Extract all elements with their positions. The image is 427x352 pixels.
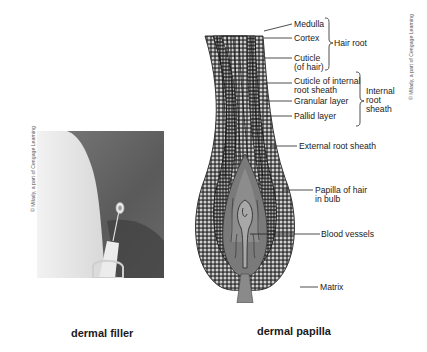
label-pallid-layer: Pallid layer [294,111,336,121]
label-cortex: Cortex [294,33,319,43]
label-hair-root: Hair root [334,38,367,48]
label-internal-root-line3: sheath [366,104,392,114]
label-matrix: Matrix [320,282,343,292]
dermal-filler-image [37,131,164,278]
left-copyright-credit: © Milady, a part of Cengage Learning [30,126,36,212]
label-blood-vessels: Blood vessels [321,229,374,239]
label-cuticle-internal-line2: root sheath [294,85,337,95]
label-granular-layer: Granular layer [294,96,348,106]
label-papilla-line2: in bulb [315,194,340,204]
dermal-filler-caption: dermal filler [71,327,133,339]
label-medulla: Medulla [294,19,324,29]
dermal-filler-photo [37,131,164,278]
dermal-papilla-caption: dermal papilla [257,325,331,337]
right-copyright-credit: © Milady, a part of Cengage Learning [408,14,414,100]
label-external-root-sheath: External root sheath [299,141,376,151]
label-cuticle-line2: (of hair) [294,62,324,72]
